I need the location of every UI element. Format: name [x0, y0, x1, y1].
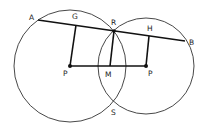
label-r: R: [111, 18, 116, 27]
label-s: S: [111, 108, 116, 117]
label-b: B: [189, 38, 194, 47]
label-p-left: P: [63, 69, 68, 78]
label-h: H: [147, 24, 153, 33]
segment-gp: [70, 25, 76, 66]
segment-rm: [110, 31, 114, 66]
label-a: A: [29, 13, 35, 22]
label-g: G: [72, 12, 78, 21]
point-p-right-dot: [144, 64, 148, 68]
point-p-left-dot: [68, 64, 72, 68]
label-p-right: P: [148, 69, 153, 78]
segment-hp: [146, 36, 149, 66]
point-r-dot: [112, 29, 116, 33]
geometry-diagram: A G R H B P M P S: [0, 0, 207, 127]
label-m: M: [105, 70, 111, 79]
